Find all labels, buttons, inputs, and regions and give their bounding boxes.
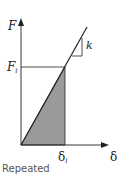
force-level-label: Fi: [7, 61, 18, 75]
displacement-level-sub: i: [65, 157, 67, 165]
slope-triangle: [72, 38, 82, 56]
displacement-level-label: δi: [58, 151, 67, 165]
force-level-sub: i: [15, 67, 17, 75]
x-axis-arrow-icon: [101, 142, 109, 148]
y-axis-label: F: [8, 20, 16, 32]
x-axis-label: δ: [110, 151, 117, 163]
y-axis-arrow-icon: [18, 18, 24, 26]
slope-label: k: [86, 40, 93, 51]
diagram-caption: Repeated: [2, 164, 50, 174]
